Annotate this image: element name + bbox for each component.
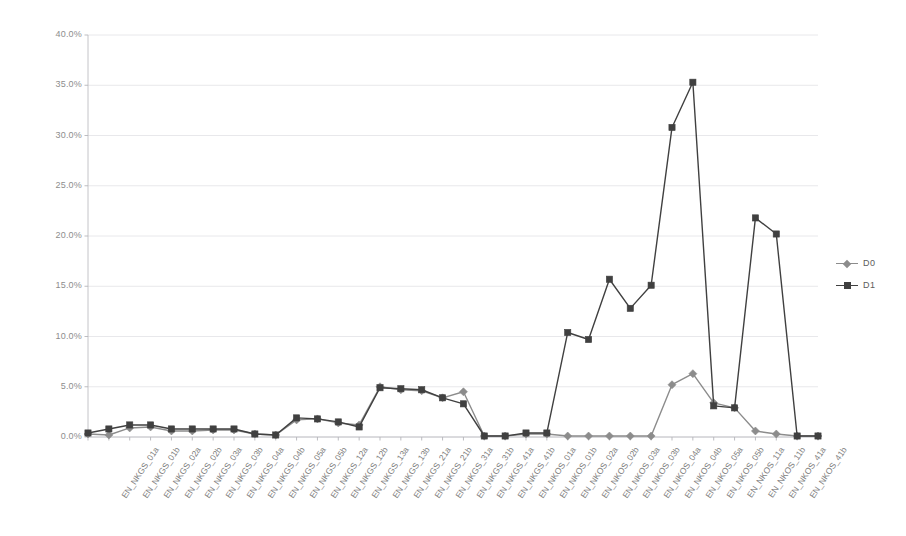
data-point <box>168 426 174 432</box>
data-point <box>669 124 675 130</box>
data-point <box>273 432 279 438</box>
data-point <box>544 430 550 436</box>
data-point <box>127 422 133 428</box>
data-point <box>439 395 445 401</box>
data-point <box>356 424 362 430</box>
y-axis-tick-label: 40.0% <box>40 29 82 39</box>
series-D1 <box>85 79 821 439</box>
y-axis-tick-label: 5.0% <box>40 381 82 391</box>
data-point <box>585 432 593 440</box>
chart-legend: D0D1 <box>836 252 876 296</box>
data-point <box>419 387 425 393</box>
data-point <box>377 385 383 391</box>
line-chart: 0.0%5.0%10.0%15.0%20.0%25.0%30.0%35.0%40… <box>0 0 906 536</box>
data-point <box>481 433 487 439</box>
legend-square-icon <box>836 280 858 290</box>
data-point <box>627 305 633 311</box>
data-point <box>106 426 112 432</box>
y-axis-tick-label: 15.0% <box>40 280 82 290</box>
legend-label: D1 <box>863 280 876 290</box>
data-point <box>648 282 654 288</box>
data-point <box>647 432 655 440</box>
data-point <box>398 386 404 392</box>
data-point <box>605 432 613 440</box>
y-axis-tick-label: 0.0% <box>40 431 82 441</box>
data-point <box>711 403 717 409</box>
data-point <box>626 432 634 440</box>
legend-diamond-icon <box>836 258 858 268</box>
legend-label: D0 <box>863 258 876 268</box>
data-point <box>502 433 508 439</box>
legend-item-D1[interactable]: D1 <box>836 274 876 296</box>
data-point <box>731 405 737 411</box>
data-point <box>773 231 779 237</box>
data-point <box>147 422 153 428</box>
y-axis-tick-label: 30.0% <box>40 130 82 140</box>
data-point <box>752 215 758 221</box>
legend-item-D0[interactable]: D0 <box>836 252 876 274</box>
data-point <box>85 430 91 436</box>
axes <box>85 35 819 441</box>
data-point <box>523 430 529 436</box>
y-axis-tick-label: 25.0% <box>40 180 82 190</box>
y-axis-tick-label: 20.0% <box>40 230 82 240</box>
data-point <box>815 433 821 439</box>
y-axis-tick-label: 10.0% <box>40 331 82 341</box>
data-point <box>794 433 800 439</box>
data-point <box>314 416 320 422</box>
data-point <box>231 426 237 432</box>
data-point <box>668 381 676 389</box>
gridlines <box>88 35 818 437</box>
data-point <box>565 329 571 335</box>
data-point <box>189 426 195 432</box>
data-point <box>564 432 572 440</box>
data-point <box>210 426 216 432</box>
data-point <box>690 79 696 85</box>
data-point <box>606 276 612 282</box>
y-axis-tick-label: 35.0% <box>40 79 82 89</box>
data-point <box>459 388 467 396</box>
data-point <box>335 419 341 425</box>
data-point <box>252 431 258 437</box>
data-point <box>293 415 299 421</box>
data-point <box>585 336 591 342</box>
data-point <box>460 401 466 407</box>
